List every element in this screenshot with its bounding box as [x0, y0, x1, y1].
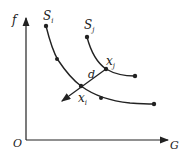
xi-label: xi — [78, 91, 87, 107]
point — [99, 96, 103, 100]
distance-label: d — [88, 68, 95, 81]
point — [44, 24, 48, 28]
curve-s-i — [46, 26, 154, 104]
point — [55, 57, 59, 61]
y-axis-label: f — [11, 13, 19, 27]
curve-s-i-label: Si — [43, 9, 53, 25]
point — [133, 74, 137, 78]
xj-label: xj — [106, 54, 116, 70]
x-axis-label: G — [170, 139, 179, 149]
origin-label: O — [13, 137, 22, 149]
diagram: f G O Si Sj xj d xi — [0, 0, 184, 149]
point — [85, 35, 89, 39]
point — [152, 102, 156, 106]
point-xi — [79, 84, 83, 88]
curve-s-j-label: Sj — [84, 18, 95, 34]
